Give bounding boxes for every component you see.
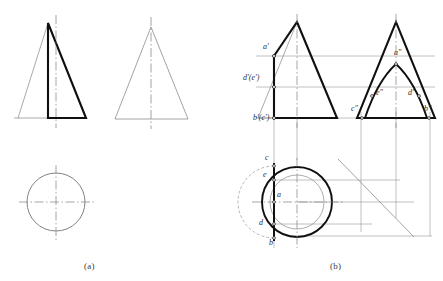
label-c: c xyxy=(265,153,269,162)
engineering-drawing-canvas xyxy=(0,0,443,281)
label-a-prime: a′ xyxy=(263,42,269,51)
point-a-prime xyxy=(273,55,276,58)
panel-a-group xyxy=(14,15,188,240)
miter-line-45deg xyxy=(338,159,414,237)
point-a-dbl-prime xyxy=(395,63,398,66)
top-view-a xyxy=(19,165,94,240)
point-d xyxy=(273,223,276,226)
label-de-prime: d′(e′) xyxy=(243,73,259,82)
label-bc-prime: b′(c′) xyxy=(253,113,269,122)
point-c xyxy=(273,165,276,168)
point-e-dbl-prime xyxy=(371,95,374,98)
point-bc-prime xyxy=(273,117,276,120)
label-b: b xyxy=(269,238,273,247)
top-view-b xyxy=(238,158,345,248)
point-de-prime xyxy=(273,86,276,89)
cone-outline-thin-a xyxy=(18,23,86,118)
point-c-dbl-prime xyxy=(361,117,364,120)
point-d-dbl-prime xyxy=(418,95,421,98)
label-b-dbl-prime: b″ xyxy=(424,104,431,113)
label-a-dbl-prime: a″ xyxy=(394,48,401,57)
label-c-dbl-prime: c″ xyxy=(351,104,358,113)
cut-profile-thick-b xyxy=(274,22,337,118)
front-view-b xyxy=(258,14,337,128)
side-view-a xyxy=(115,17,188,129)
projection-construction xyxy=(256,56,435,248)
cone-outline-thin-side-a xyxy=(115,27,188,119)
label-d: d xyxy=(259,218,263,227)
cone-outline-thin-b xyxy=(258,22,337,118)
caption-b: (b) xyxy=(330,261,341,271)
caption-a: (a) xyxy=(84,261,95,271)
point-b xyxy=(273,237,276,240)
front-view-a xyxy=(14,15,86,128)
label-d-dbl-prime: d″ xyxy=(408,88,415,97)
label-e: e xyxy=(263,170,267,179)
point-e xyxy=(273,179,276,182)
figure-root: a′ d′(e′) b′(c′) a″ e″ d″ c″ b″ c e a d … xyxy=(0,0,443,281)
label-e-dbl-prime: e″ xyxy=(376,88,383,97)
cut-profile-thick-a xyxy=(48,23,86,118)
point-b-dbl-prime xyxy=(428,117,431,120)
point-a xyxy=(273,201,276,204)
label-a: a xyxy=(277,190,281,199)
